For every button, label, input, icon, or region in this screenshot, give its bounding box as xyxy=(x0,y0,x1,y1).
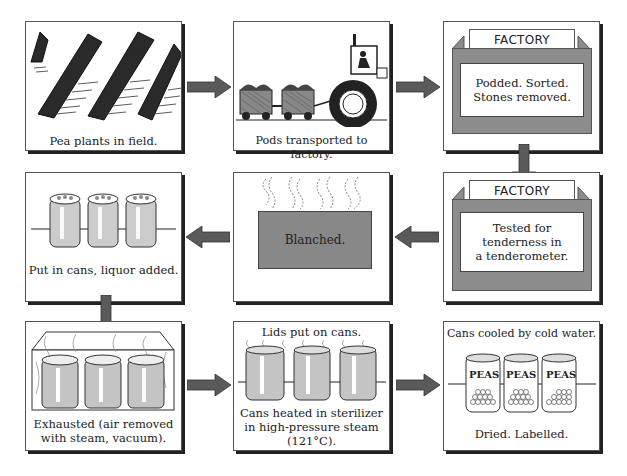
step-6-canning: Put in cans, liquor added. xyxy=(25,172,182,302)
step-1-caption: Pea plants in field. xyxy=(26,134,181,148)
arrow-left-icon xyxy=(186,226,230,248)
factory-process-card: Tested for tenderness in a tenderometer. xyxy=(460,212,584,272)
step-4-factory-tenderometer: FACTORY Tested for tenderness in a tende… xyxy=(443,172,600,302)
arrow-right-icon xyxy=(396,76,440,98)
labelled-pea-cans-illustration: PEAS PEAS PEAS xyxy=(444,352,599,422)
step-6-caption: Put in cans, liquor added. xyxy=(26,263,181,277)
arrow-right-icon xyxy=(187,76,231,98)
factory-label: FACTORY xyxy=(469,180,575,201)
step-3-text-line2: Stones removed. xyxy=(473,90,571,104)
step-8-caption: Cans heated in sterilizer in high-pressu… xyxy=(234,406,389,448)
step-3-text-line1: Podded. Sorted. xyxy=(473,76,571,90)
step-8-caption-line2: in high-pressure steam xyxy=(234,420,389,434)
blanching-tank: Blanched. xyxy=(258,211,372,269)
step-7-exhausting: Exhausted (air removed with steam, vacuu… xyxy=(25,321,182,451)
open-cans-illustration xyxy=(26,173,181,258)
tractor-with-trailers-illustration xyxy=(234,22,389,127)
factory-building: Tested for tenderness in a tenderometer. xyxy=(452,199,592,291)
step-4-text-line3: a tenderometer. xyxy=(476,249,569,263)
step-5-label: Blanched. xyxy=(285,233,346,247)
step-8-sterilizing: Lids put on cans. Cans heated in sterili… xyxy=(233,321,390,451)
step-4-text-line2: tenderness in xyxy=(476,235,569,249)
step-4-text-line1: Tested for xyxy=(476,221,569,235)
step-9-cooling-labelling: Cans cooled by cold water. PEAS PEAS PEA… xyxy=(443,321,600,451)
cans-in-steam-chamber-illustration xyxy=(26,322,181,412)
step-7-caption-line1: Exhausted (air removed xyxy=(26,417,181,431)
arrow-left-icon xyxy=(395,226,439,248)
factory-process-card: Podded. Sorted. Stones removed. xyxy=(460,63,584,117)
step-3-factory-podding: FACTORY Podded. Sorted. Stones removed. xyxy=(443,21,600,151)
step-7-caption-line2: with steam, vacuum). xyxy=(26,431,181,445)
step-1-pea-plants: Pea plants in field. xyxy=(25,21,182,151)
step-2-caption: Pods transported to factory. xyxy=(234,134,389,162)
can-label-text: PEAS xyxy=(506,369,536,380)
arrow-right-icon xyxy=(187,374,231,396)
steam-icon xyxy=(234,173,389,213)
arrow-right-icon xyxy=(396,374,440,396)
factory-label: FACTORY xyxy=(469,29,575,50)
step-9-top-caption: Cans cooled by cold water. xyxy=(444,327,599,341)
step-8-caption-line1: Cans heated in sterilizer xyxy=(234,406,389,420)
pea-plants-illustration xyxy=(26,22,181,122)
step-9-caption: Dried. Labelled. xyxy=(444,427,599,441)
step-5-blanching: Blanched. xyxy=(233,172,390,302)
lidded-cans-illustration xyxy=(234,338,389,408)
step-8-caption-line3: (121°C). xyxy=(234,434,389,448)
step-7-caption: Exhausted (air removed with steam, vacuu… xyxy=(26,417,181,445)
factory-building: Podded. Sorted. Stones removed. xyxy=(452,48,592,134)
can-label-text: PEAS xyxy=(469,369,499,380)
can-label-text: PEAS xyxy=(546,369,576,380)
step-2-transport: Pods transported to factory. xyxy=(233,21,390,151)
step-8-top-caption: Lids put on cans. xyxy=(234,325,389,339)
